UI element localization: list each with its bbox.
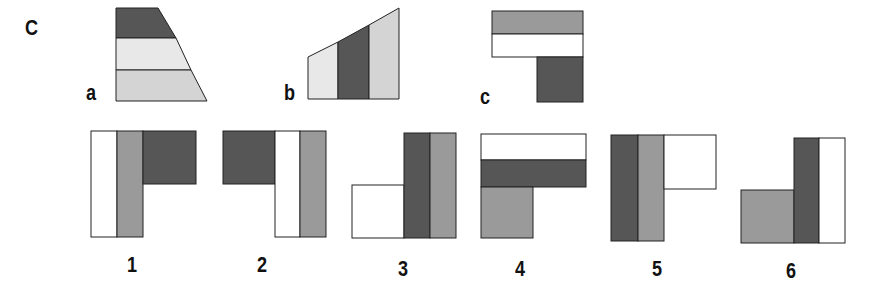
option-4-strip-white (481, 134, 586, 160)
option-5-block-white (664, 135, 716, 189)
option-2-figure[interactable] (223, 131, 326, 237)
option-2-strip-medium (300, 131, 326, 237)
piece-b-band-light (369, 8, 399, 99)
option-3-strip-medium (430, 133, 456, 238)
option-2-strip-white (275, 131, 300, 237)
piece-c-band-white (492, 34, 583, 57)
piece-b (308, 8, 399, 99)
option-6-figure[interactable] (741, 138, 845, 243)
option-1-strip-white (91, 131, 117, 237)
piece-b-label: b (284, 80, 295, 106)
option-4-block-medium (481, 187, 533, 238)
option-4-label[interactable]: 4 (515, 256, 525, 282)
puzzle-canvas (0, 0, 877, 290)
piece-c (492, 11, 583, 102)
puzzle-title: C (25, 15, 38, 41)
option-1-figure[interactable] (91, 131, 196, 237)
piece-a-band-very-light (116, 38, 191, 70)
option-6-block-medium (741, 190, 794, 243)
option-6-strip-white (819, 138, 845, 243)
piece-b-band-dark (338, 25, 369, 99)
option-3-label[interactable]: 3 (398, 256, 408, 282)
option-3-block-white (352, 185, 404, 238)
piece-c-block-dark (537, 57, 583, 102)
option-6-strip-dark (794, 138, 819, 243)
piece-b-band-very-light (308, 42, 338, 99)
option-3-figure[interactable] (352, 133, 456, 238)
option-4-strip-dark (481, 160, 586, 187)
option-5-strip-dark (611, 135, 638, 241)
piece-a-band-dark (116, 8, 176, 38)
piece-a-label: a (86, 80, 96, 106)
option-5-strip-medium (638, 135, 664, 241)
option-2-block-dark (223, 131, 275, 184)
option-1-label[interactable]: 1 (127, 252, 137, 278)
option-4-figure[interactable] (481, 134, 586, 238)
piece-c-band-medium (492, 11, 583, 34)
option-2-label[interactable]: 2 (257, 252, 267, 278)
option-5-figure[interactable] (611, 135, 716, 241)
piece-c-label: c (480, 84, 490, 110)
option-1-strip-medium (117, 131, 143, 237)
option-6-label[interactable]: 6 (786, 258, 796, 284)
option-5-label[interactable]: 5 (652, 256, 662, 282)
piece-a-band-light (116, 70, 207, 101)
option-3-strip-dark (404, 133, 430, 238)
piece-a (116, 8, 207, 101)
option-1-block-dark (143, 131, 196, 184)
